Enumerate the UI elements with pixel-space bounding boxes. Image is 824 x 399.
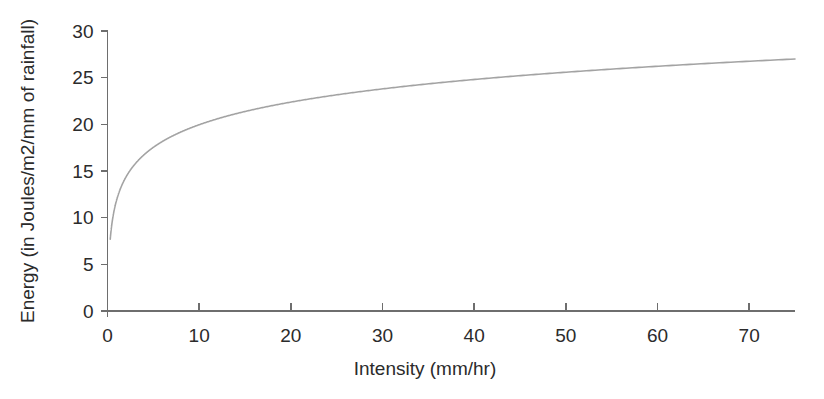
rainfall-energy-chart: 051015202530 010203040506070 Intensity (… [0,0,824,399]
y-tick-label: 0 [83,301,94,322]
x-tick-label: 10 [189,325,210,346]
x-tick-label: 50 [555,325,576,346]
y-tick-label: 5 [83,254,94,275]
x-tick-label: 0 [102,325,113,346]
x-tick-label: 40 [464,325,485,346]
x-tick-label: 70 [739,325,760,346]
y-axis-ticks [101,31,108,311]
y-tick-label: 25 [72,67,93,88]
y-tick-label: 20 [72,114,93,135]
intensity-axis: 010203040506070 [102,303,795,346]
x-tick-label: 60 [647,325,668,346]
x-tick-label: 20 [280,325,301,346]
energy-intensity-curve [110,59,795,239]
x-axis-ticks [108,303,750,317]
x-axis-tick-labels: 010203040506070 [102,325,760,346]
chart-figure: 051015202530 010203040506070 Intensity (… [0,0,824,399]
y-tick-label: 30 [72,21,93,42]
y-axis-tick-labels: 051015202530 [72,21,93,322]
x-tick-label: 30 [372,325,393,346]
y-tick-label: 15 [72,161,93,182]
x-axis-title: Intensity (mm/hr) [354,358,497,379]
y-tick-label: 10 [72,207,93,228]
energy-axis: 051015202530 [72,21,107,322]
y-axis-title: Energy (in Joules/m2/mm of rainfall) [17,19,38,323]
